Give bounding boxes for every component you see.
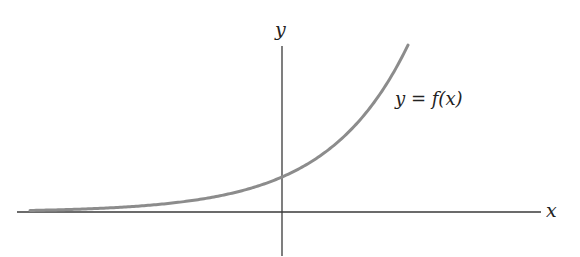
function-curve xyxy=(30,45,408,210)
curve-label: y = f(x) xyxy=(395,90,463,108)
x-axis-label: x xyxy=(546,201,557,220)
graph-canvas xyxy=(0,0,580,257)
exponential-graph: y x y = f(x) xyxy=(0,0,580,257)
y-axis-label: y xyxy=(275,20,286,39)
